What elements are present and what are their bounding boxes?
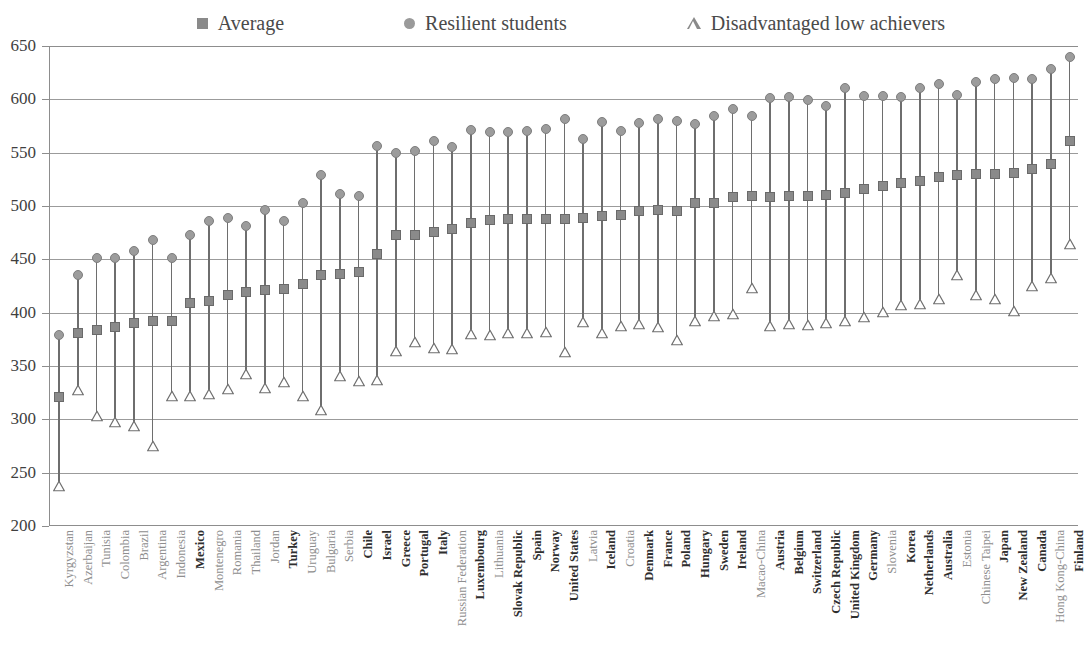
circle-marker-icon <box>952 90 962 100</box>
x-axis-label: Switzerland <box>811 530 824 594</box>
triangle-marker-icon <box>297 387 309 398</box>
stem-line <box>545 129 547 328</box>
data-column[interactable] <box>275 46 293 525</box>
data-column[interactable] <box>836 46 854 525</box>
data-column[interactable] <box>88 46 106 525</box>
data-column[interactable] <box>761 46 779 525</box>
data-column[interactable] <box>1023 46 1041 525</box>
data-column[interactable] <box>724 46 742 525</box>
data-column[interactable] <box>312 46 330 525</box>
triangle-marker-icon <box>652 319 664 330</box>
data-column[interactable] <box>1005 46 1023 525</box>
data-column[interactable] <box>425 46 443 525</box>
data-column[interactable] <box>1042 46 1060 525</box>
stem-line <box>975 82 977 292</box>
data-column[interactable] <box>406 46 424 525</box>
data-column[interactable] <box>163 46 181 525</box>
data-column[interactable] <box>443 46 461 525</box>
data-column[interactable] <box>69 46 87 525</box>
square-marker-icon <box>578 213 588 223</box>
triangle-marker-icon <box>203 385 215 396</box>
y-tick-mark-600 <box>42 99 49 100</box>
data-column[interactable] <box>855 46 873 525</box>
circle-marker-icon <box>485 127 495 137</box>
square-marker-icon <box>260 285 270 295</box>
stem-line <box>339 194 341 373</box>
circle-marker-icon <box>690 119 700 129</box>
x-axis-label: Estonia <box>961 530 974 568</box>
circle-marker-icon <box>934 79 944 89</box>
data-column[interactable] <box>743 46 761 525</box>
data-column[interactable] <box>200 46 218 525</box>
data-column[interactable] <box>649 46 667 525</box>
data-column[interactable] <box>106 46 124 525</box>
data-column[interactable] <box>1061 46 1079 525</box>
data-column[interactable] <box>705 46 723 525</box>
data-column[interactable] <box>50 46 68 525</box>
data-column[interactable] <box>462 46 480 525</box>
square-marker-icon <box>784 191 794 201</box>
data-column[interactable] <box>368 46 386 525</box>
data-column[interactable] <box>986 46 1004 525</box>
stem-line <box>133 251 135 423</box>
circle-marker-icon <box>747 111 757 121</box>
data-column[interactable] <box>518 46 536 525</box>
circle-marker-icon <box>616 126 626 136</box>
y-tick-label-250: 250 <box>11 463 37 483</box>
data-column[interactable] <box>499 46 517 525</box>
data-column[interactable] <box>817 46 835 525</box>
circle-marker-icon <box>1046 64 1056 74</box>
stem-line <box>96 258 98 413</box>
data-column[interactable] <box>387 46 405 525</box>
data-column[interactable] <box>144 46 162 525</box>
data-column[interactable] <box>686 46 704 525</box>
x-axis-label: Latvia <box>587 530 600 562</box>
triangle-marker-icon <box>1045 270 1057 281</box>
triangle-marker-icon <box>334 368 346 379</box>
circle-marker-icon <box>404 18 415 29</box>
data-column[interactable] <box>780 46 798 525</box>
stem-line <box>620 131 622 323</box>
data-column[interactable] <box>350 46 368 525</box>
data-column[interactable] <box>593 46 611 525</box>
stem-line <box>114 258 116 419</box>
data-column[interactable] <box>125 46 143 525</box>
data-column[interactable] <box>537 46 555 525</box>
data-column[interactable] <box>967 46 985 525</box>
data-column[interactable] <box>237 46 255 525</box>
data-column[interactable] <box>874 46 892 525</box>
stem-line <box>825 106 827 320</box>
data-column[interactable] <box>219 46 237 525</box>
triangle-marker-icon <box>53 478 65 489</box>
data-column[interactable] <box>294 46 312 525</box>
data-column[interactable] <box>668 46 686 525</box>
data-column[interactable] <box>948 46 966 525</box>
circle-marker-icon <box>316 170 326 180</box>
circle-marker-icon <box>148 235 158 245</box>
triangle-marker-icon <box>708 307 720 318</box>
x-axis-label: Austria <box>774 530 787 570</box>
data-column[interactable] <box>630 46 648 525</box>
data-column[interactable] <box>930 46 948 525</box>
triangle-marker-icon <box>746 279 758 290</box>
data-column[interactable] <box>799 46 817 525</box>
data-column[interactable] <box>574 46 592 525</box>
legend-item-average: Average <box>197 12 284 35</box>
data-column[interactable] <box>892 46 910 525</box>
square-marker-icon <box>597 211 607 221</box>
data-column[interactable] <box>612 46 630 525</box>
data-column[interactable] <box>911 46 929 525</box>
data-column[interactable] <box>256 46 274 525</box>
circle-marker-icon <box>915 83 925 93</box>
data-column[interactable] <box>181 46 199 525</box>
square-marker-icon <box>73 328 83 338</box>
triangle-marker-icon <box>147 437 159 448</box>
triangle-marker-icon <box>502 324 514 335</box>
triangle-marker-icon <box>577 314 589 325</box>
data-column[interactable] <box>481 46 499 525</box>
data-column[interactable] <box>331 46 349 525</box>
triangle-marker-icon <box>428 339 440 350</box>
data-column[interactable] <box>556 46 574 525</box>
y-tick-label-450: 450 <box>11 249 37 269</box>
triangle-marker-icon <box>858 308 870 319</box>
